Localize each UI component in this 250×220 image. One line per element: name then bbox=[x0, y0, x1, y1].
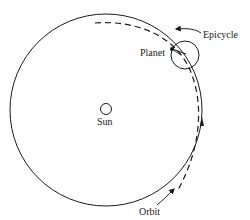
orbit-label: Orbit bbox=[139, 207, 160, 217]
epicycle-arrow-icon bbox=[176, 29, 201, 33]
planet-label: Planet bbox=[140, 48, 165, 58]
path-direction-marker bbox=[200, 117, 204, 126]
epicycle-label: Epicycle bbox=[203, 30, 238, 40]
sun-icon bbox=[101, 104, 112, 115]
orbit-arrow-icon bbox=[157, 189, 174, 205]
sun-label: Sun bbox=[97, 117, 113, 127]
orbit-circle bbox=[10, 14, 202, 206]
